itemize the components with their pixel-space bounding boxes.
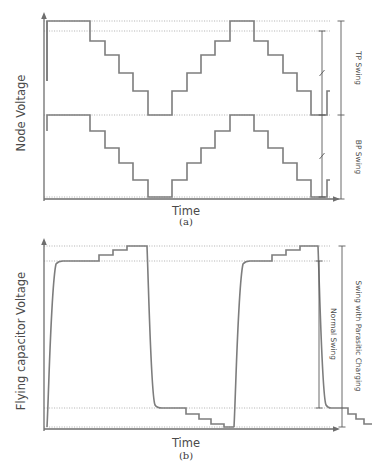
panel-a-annotations	[319, 21, 345, 199]
panel-b: Flying capacitor Voltage	[0, 228, 372, 471]
panel-b-yaxis-arrow	[41, 238, 47, 245]
panel-b-trace-cycle-1	[47, 246, 234, 427]
panel-b-ylabel: Flying capacitor Voltage	[14, 272, 28, 410]
panel-b-caption: (b)	[0, 450, 372, 461]
panel-b-axes	[44, 242, 336, 431]
panel-b-trace-cycle-2	[234, 246, 372, 427]
bp-swing-label: BP Swing	[354, 140, 363, 175]
panel-b-gridlines	[44, 246, 330, 427]
tp-swing-label: TP Swing	[354, 50, 363, 85]
panel-a-yaxis-arrow	[41, 12, 47, 19]
panel-a: Node Voltage	[0, 0, 372, 236]
panel-a-caption: (a)	[0, 216, 372, 227]
normal-swing-label: Normal Swing	[329, 308, 338, 360]
figure-container: Node Voltage	[0, 0, 372, 471]
panel-a-bp-trace	[47, 115, 330, 197]
panel-b-chart: Flying capacitor Voltage	[0, 228, 372, 471]
parasitic-swing-label: Swing with Parasitic Charging	[354, 280, 363, 391]
panel-a-tp-trace	[47, 21, 330, 115]
panel-b-xlabel: Time	[171, 436, 200, 450]
panel-a-ylabel: Node Voltage	[14, 75, 28, 152]
panel-a-chart: Node Voltage	[0, 0, 372, 236]
panel-a-axes	[44, 16, 336, 201]
